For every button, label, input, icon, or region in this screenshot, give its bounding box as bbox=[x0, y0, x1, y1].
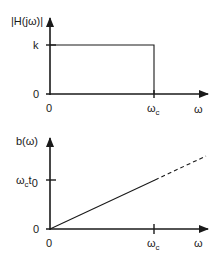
magnitude-curve bbox=[50, 45, 154, 94]
omega-x-label: ω bbox=[194, 103, 203, 115]
zero-x-label: 0 bbox=[46, 237, 52, 249]
y-axis-label-text: |H(jω)| bbox=[11, 15, 43, 27]
zero-y-label: 0 bbox=[33, 223, 39, 235]
omega-x-label: ω bbox=[194, 237, 203, 249]
phase-line-dashed bbox=[155, 156, 206, 180]
phase-plot: b(ω) ωct0 0 0 ωc ω bbox=[16, 135, 208, 252]
phase-line-solid bbox=[50, 180, 155, 229]
wc-label: ωc bbox=[147, 102, 160, 117]
magnitude-plot: |H(jω)| k 0 0 ωc ω bbox=[11, 15, 208, 117]
wct0-label: ωct0 bbox=[16, 174, 38, 189]
filter-response-diagram: |H(jω)| k 0 0 ωc ω b(ω) ωct0 0 0 ωc ω bbox=[0, 0, 224, 266]
zero-x-label: 0 bbox=[46, 102, 52, 114]
k-label: k bbox=[33, 39, 39, 51]
y-axis-label: b(ω) bbox=[16, 135, 38, 147]
wc-label: ωc bbox=[147, 237, 160, 252]
zero-y-label: 0 bbox=[33, 88, 39, 100]
